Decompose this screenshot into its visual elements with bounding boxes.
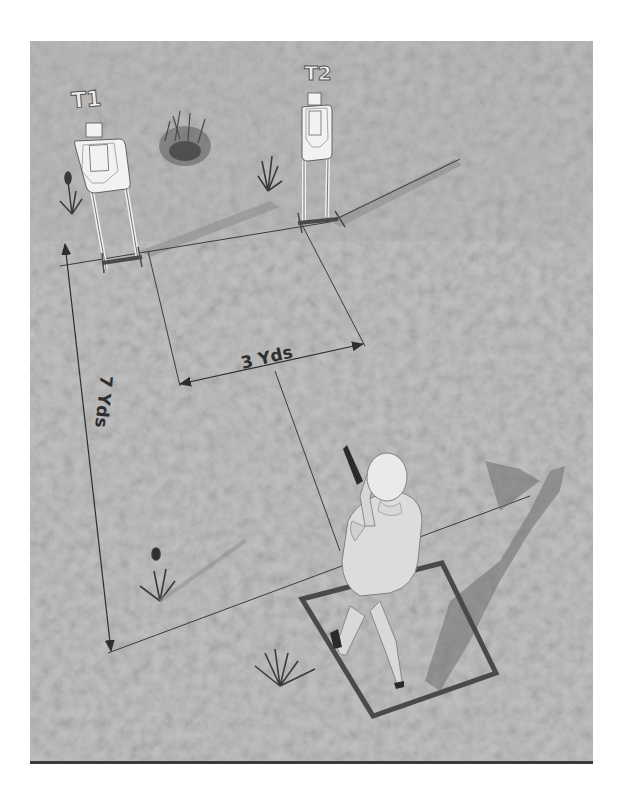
target-label-t1: T1	[70, 86, 102, 114]
drill-diagram: 3 Yds 7 Yds	[30, 41, 593, 762]
target-label-t2: T2	[304, 61, 332, 85]
bottom-rule	[30, 761, 593, 764]
